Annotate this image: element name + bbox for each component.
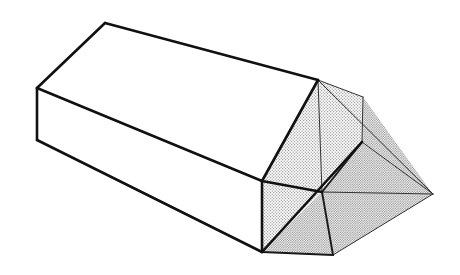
solid-drawing: Isometric line drawing of an elongated p… (0, 0, 460, 275)
figure-root: Isometric line drawing of an elongated p… (0, 0, 460, 275)
